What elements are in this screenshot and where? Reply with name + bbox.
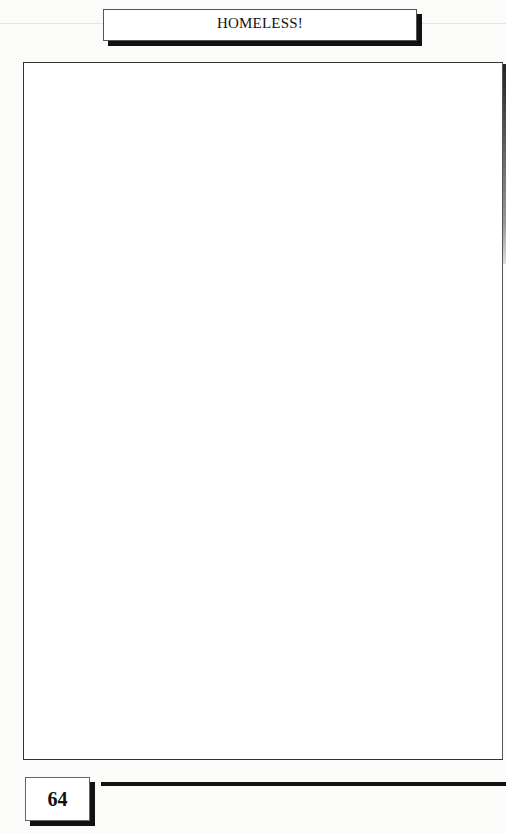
content-frame <box>23 62 503 760</box>
page-number: 64 <box>48 788 68 811</box>
footer-rule <box>101 782 506 786</box>
page-title: HOMELESS! <box>217 15 303 32</box>
header-title-box: HOMELESS! <box>103 9 417 41</box>
page-number-box: 64 <box>25 777 90 821</box>
